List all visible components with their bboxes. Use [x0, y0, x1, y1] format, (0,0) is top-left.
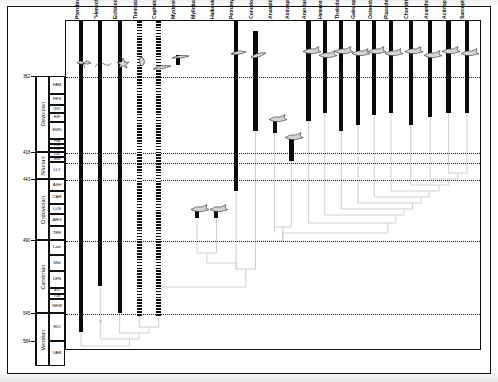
taxon-silhouette-17	[383, 47, 405, 59]
period-label: Ordovician	[40, 196, 46, 224]
range-bar-20	[446, 21, 451, 113]
age-tick-label: 362	[10, 74, 30, 79]
uncertainty-question-mark: ?	[99, 319, 102, 325]
stage-cell: LLY	[49, 162, 65, 179]
taxon-name-5: Myxinoidea	[170, 0, 176, 19]
stage-label: VAR	[53, 351, 61, 355]
age-tick-label: 490	[10, 238, 30, 243]
taxon-name-15: Galeaspida	[350, 0, 356, 19]
taxon-name-21: Sarcopterygii	[459, 0, 465, 19]
silhouette-path	[172, 55, 189, 58]
period-cell: Ordovician	[36, 179, 49, 240]
period-label: Cambrian	[40, 264, 46, 289]
period-boundary-line-2	[66, 163, 480, 164]
period-boundary-line-4	[66, 241, 480, 242]
stage-label: LLY	[53, 168, 60, 172]
silhouette-path	[405, 47, 423, 54]
stage-label: WEN	[54, 158, 61, 161]
stage-cell: FRS	[49, 94, 65, 105]
taxon-name-14: Thelodonti	[334, 0, 340, 19]
stage-cell: ASH	[49, 179, 65, 191]
taxon-silhouette-7	[208, 203, 230, 215]
range-bar-13	[323, 21, 327, 113]
silhouette-path	[117, 58, 129, 68]
taxon-name-2: Echinodermata	[112, 0, 118, 19]
range-bar-14	[339, 21, 343, 131]
range-bar-12	[306, 21, 311, 121]
stage-label: ATD	[54, 289, 60, 292]
age-tick-label: 584	[10, 339, 30, 344]
stage-label: Late	[53, 245, 61, 249]
stage-label: LEN	[53, 277, 61, 281]
taxon-name-1: "Hemichordata"	[93, 0, 99, 19]
stage-label: LLN	[53, 207, 61, 211]
stage-label: Mid	[54, 261, 61, 265]
stage-cell: EMS	[49, 122, 65, 139]
period-label: Silurian	[40, 156, 46, 175]
taxon-label-row: Pterobranchia"Hemichordata"Echinodermata…	[65, 0, 481, 20]
range-bar-17	[389, 21, 394, 113]
taxon-silhouette-21	[459, 47, 481, 59]
taxon-name-6: Myllokunmingia	[190, 0, 196, 19]
silhouette-path	[442, 47, 460, 54]
taxon-name-9: Conodonta	[248, 0, 254, 19]
silhouette-path	[140, 57, 145, 66]
taxon-name-17: Placodermi	[383, 0, 389, 19]
range-chart-plot: ?	[65, 20, 481, 350]
stage-label: ASH	[53, 183, 62, 187]
taxon-name-8: Petromyzontida	[228, 0, 234, 19]
stage-label: EIF	[54, 115, 61, 119]
period-boundary-line-3	[66, 180, 480, 181]
taxon-name-19: Acanthodii	[423, 0, 429, 19]
age-tick-label: 545	[10, 311, 30, 316]
stage-label: ARG	[52, 218, 61, 222]
stage-label: LUD	[54, 153, 60, 156]
taxon-name-18: Chondrichthyes	[403, 0, 409, 19]
stage-label: FRS	[53, 97, 61, 101]
taxon-name-4: Cephalochordata	[151, 0, 157, 19]
stage-label: CAR	[53, 195, 62, 199]
stage-cell: Mid	[49, 255, 65, 271]
stage-label: EMS	[52, 128, 61, 132]
age-tick-label: 418	[10, 150, 30, 155]
taxon-silhouette-5	[170, 51, 192, 63]
period-label: Devonian	[40, 102, 46, 126]
taxon-name-0: Pterobranchia	[74, 0, 80, 19]
age-tick-label: 443	[10, 177, 30, 182]
silhouette-path	[210, 205, 228, 212]
stage-cell: NEM	[49, 299, 65, 313]
taxon-name-13: Heterostraci	[317, 0, 323, 19]
stage-cell: LLN	[49, 204, 65, 214]
range-bar-21	[465, 21, 470, 113]
range-bar-19	[428, 21, 432, 117]
stage-label: EDI	[53, 325, 60, 329]
stage-label: TOM	[54, 295, 61, 298]
taxon-name-12: Arandaspida	[301, 0, 307, 19]
silhouette-path	[153, 65, 171, 69]
period-boundary-line-5	[66, 314, 480, 315]
stage-label: FAM	[53, 83, 62, 87]
silhouette-path	[269, 115, 287, 122]
period-cell: Devonian	[36, 76, 49, 152]
period-label: Vendian	[40, 329, 46, 350]
silhouette-path	[191, 205, 209, 212]
period-boundary-line-0	[66, 77, 480, 78]
silhouette-path	[231, 51, 246, 55]
period-cell: Cambrian	[36, 240, 49, 313]
range-bar-9	[253, 31, 258, 131]
silhouette-path	[95, 63, 111, 67]
period-boundary-line-1	[66, 153, 480, 154]
stage-cell: TRE	[49, 226, 65, 240]
stage-label: TRE	[53, 231, 61, 235]
stage-label: NEM	[52, 304, 61, 308]
stage-cell: GIV	[49, 105, 65, 113]
stage-cell: EIF	[49, 113, 65, 122]
range-chart-graphics	[66, 21, 481, 350]
period-cell: Silurian	[36, 152, 49, 179]
range-bar-15	[356, 21, 361, 125]
taxon-silhouette-9	[248, 49, 270, 61]
stage-cell: ARG	[49, 214, 65, 226]
silhouette-path	[285, 133, 303, 140]
taxon-name-16: Osteostraci	[367, 0, 373, 19]
stage-cell: Late	[49, 240, 65, 255]
